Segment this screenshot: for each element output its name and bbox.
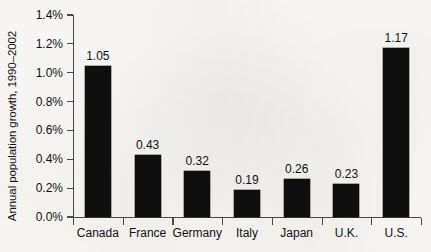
y-tick-mark <box>67 188 73 189</box>
bar-u-k[interactable] <box>333 184 359 217</box>
y-tick-mark <box>67 101 73 102</box>
x-tick-mark <box>272 218 273 225</box>
x-tick-mark <box>73 218 74 225</box>
x-category-label: France <box>129 226 166 240</box>
y-tick-label: 1.0% <box>3 66 63 80</box>
x-category-label: U.K. <box>335 226 358 240</box>
y-tick-mark <box>67 14 73 15</box>
y-tick-label: 0.8% <box>3 95 63 109</box>
y-tick-label: 0.4% <box>3 152 63 166</box>
bar-germany[interactable] <box>184 171 210 217</box>
bar-value-label: 0.19 <box>235 173 258 187</box>
x-tick-mark <box>123 218 124 225</box>
bar-canada[interactable] <box>85 66 111 218</box>
bar-france[interactable] <box>135 155 161 217</box>
plot-area: 0.0%0.2%0.4%0.6%0.8%1.0%1.2%1.4% 1.050.4… <box>0 0 431 252</box>
x-category-label: Japan <box>280 226 313 240</box>
x-tick-mark <box>322 218 323 225</box>
y-tick-mark <box>67 130 73 131</box>
bar-u-s[interactable] <box>383 48 409 217</box>
bar-value-label: 0.23 <box>335 167 358 181</box>
bar-japan[interactable] <box>284 179 310 217</box>
y-tick-label: 0.2% <box>3 181 63 195</box>
bar-value-label: 0.32 <box>186 154 209 168</box>
chart-page: Annual population growth, 1990–2002 0.0%… <box>0 0 431 252</box>
x-category-label: Italy <box>236 226 258 240</box>
x-tick-mark <box>421 218 422 225</box>
x-category-label: U.S. <box>384 226 407 240</box>
x-category-label: Canada <box>77 226 119 240</box>
bar-value-label: 1.05 <box>86 49 109 63</box>
y-tick-label: 0.6% <box>3 123 63 137</box>
y-tick-label: 1.4% <box>3 8 63 22</box>
y-tick-mark <box>67 159 73 160</box>
y-tick-label: 1.2% <box>3 37 63 51</box>
bar-value-label: 0.43 <box>136 138 159 152</box>
bar-value-label: 1.17 <box>384 31 407 45</box>
y-tick-mark <box>67 43 73 44</box>
x-category-label: Germany <box>173 226 222 240</box>
x-axis-line <box>73 217 421 218</box>
y-tick-mark <box>67 72 73 73</box>
x-tick-mark <box>222 218 223 225</box>
bar-value-label: 0.26 <box>285 162 308 176</box>
bar-italy[interactable] <box>234 190 260 217</box>
y-axis-line <box>73 15 74 218</box>
x-tick-mark <box>172 218 173 225</box>
x-tick-mark <box>371 218 372 225</box>
y-tick-label: 0.0% <box>3 210 63 224</box>
